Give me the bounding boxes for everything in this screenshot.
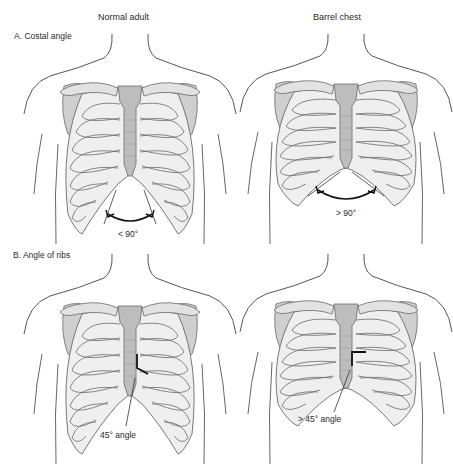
costal-angle-barrel-annotation: > 90° [336, 208, 356, 218]
rib-angle-marker-icon [236, 244, 453, 464]
costal-angle-normal-annotation: < 90° [118, 229, 138, 239]
column-title-normal-adult: Normal adult [98, 12, 149, 22]
costal-angle-arc-icon [20, 24, 240, 244]
rib-angle-barrel-annotation: > 45° angle [298, 414, 341, 424]
column-title-barrel-chest: Barrel chest [313, 12, 361, 22]
thorax-barrel-costal-angle: > 90° [236, 24, 453, 244]
rib-angle-normal-annotation: 45° angle [100, 430, 136, 440]
thorax-normal-rib-angle: 45° angle [20, 244, 240, 464]
thorax-normal-costal-angle: < 90° [20, 24, 240, 244]
thorax-barrel-rib-angle: > 45° angle [236, 244, 453, 464]
